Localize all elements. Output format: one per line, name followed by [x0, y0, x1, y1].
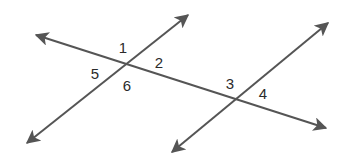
angle-label-5: 5 — [91, 65, 99, 82]
angle-label-4: 4 — [259, 85, 267, 102]
diagram-svg: 125634 — [0, 0, 340, 155]
transversal-line — [36, 35, 326, 128]
angle-label-2: 2 — [155, 54, 163, 71]
lines-group — [27, 15, 328, 152]
line-a-line — [27, 15, 188, 143]
diagram-canvas: 125634 — [0, 0, 340, 155]
line-b-line — [172, 23, 328, 152]
angle-label-3: 3 — [226, 75, 234, 92]
angle-label-1: 1 — [119, 39, 127, 56]
angle-label-6: 6 — [123, 77, 131, 94]
